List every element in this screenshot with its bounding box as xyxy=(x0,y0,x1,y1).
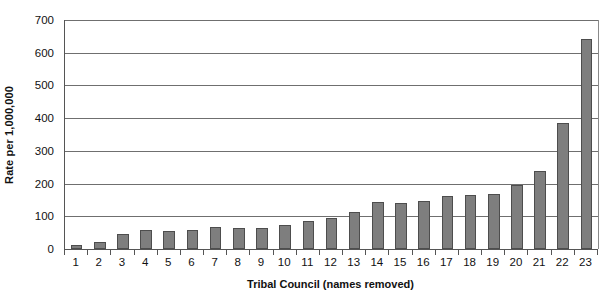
x-axis-tick xyxy=(273,249,274,255)
y-axis-tick-label: 0 xyxy=(18,243,54,255)
x-axis-tick-label: 16 xyxy=(417,256,430,268)
x-axis-tick-label: 8 xyxy=(235,256,241,268)
x-axis-tick-label: 12 xyxy=(324,256,337,268)
bar xyxy=(140,230,152,249)
x-axis-tick-label: 10 xyxy=(278,256,291,268)
y-axis-tick-label: 500 xyxy=(18,79,54,91)
x-axis-tick xyxy=(527,249,528,255)
x-axis-tick-label: 1 xyxy=(72,256,78,268)
x-axis-tick xyxy=(504,249,505,255)
x-axis-tick-label: 7 xyxy=(211,256,217,268)
x-axis-tick-label: 15 xyxy=(394,256,407,268)
y-axis-tick-label: 400 xyxy=(18,112,54,124)
x-axis-tick-label: 2 xyxy=(96,256,102,268)
bar xyxy=(581,39,593,249)
x-axis-tick xyxy=(296,249,297,255)
x-axis-tick-label: 19 xyxy=(486,256,499,268)
bars-layer xyxy=(65,20,598,249)
x-axis-tick xyxy=(481,249,482,255)
plot-right-edge xyxy=(598,20,599,249)
x-axis-tick xyxy=(319,249,320,255)
x-axis-tick xyxy=(458,249,459,255)
bar xyxy=(233,228,245,249)
y-axis-title: Rate per 1,000,000 xyxy=(0,0,18,270)
x-axis-tick-label: 14 xyxy=(370,256,383,268)
x-axis-tick xyxy=(435,249,436,255)
x-axis-tick-labels: 1234567891011121314151617181920212223 xyxy=(64,256,597,274)
x-axis-tick-label: 23 xyxy=(579,256,592,268)
y-axis-title-text: Rate per 1,000,000 xyxy=(3,86,15,184)
x-axis-tick-label: 20 xyxy=(509,256,522,268)
x-axis-tick-label: 5 xyxy=(165,256,171,268)
bar xyxy=(326,218,338,249)
bar xyxy=(303,221,315,249)
x-axis-tick-label: 9 xyxy=(258,256,264,268)
y-axis-tick-label: 100 xyxy=(18,210,54,222)
x-axis-tick xyxy=(110,249,111,255)
bar xyxy=(465,195,477,249)
x-axis-tick xyxy=(342,249,343,255)
y-axis-tick-label: 200 xyxy=(18,178,54,190)
x-axis-tick xyxy=(574,249,575,255)
x-axis-tick-label: 17 xyxy=(440,256,453,268)
bar xyxy=(279,225,291,249)
bar xyxy=(163,231,175,249)
x-axis-tick xyxy=(412,249,413,255)
bar xyxy=(94,242,106,249)
bar xyxy=(187,230,199,249)
bar xyxy=(349,212,361,249)
x-axis-title: Tribal Council (names removed) xyxy=(64,278,597,290)
bar xyxy=(372,202,384,249)
x-axis-tick-label: 18 xyxy=(463,256,476,268)
y-axis-tick-label: 700 xyxy=(18,14,54,26)
x-axis-tick xyxy=(203,249,204,255)
x-axis-tick-label: 4 xyxy=(142,256,148,268)
x-axis-tick xyxy=(157,249,158,255)
y-axis-tick-label: 600 xyxy=(18,47,54,59)
bar xyxy=(534,171,546,249)
x-axis-tick xyxy=(226,249,227,255)
bar xyxy=(418,201,430,249)
bar xyxy=(256,228,268,249)
x-axis-tick-label: 11 xyxy=(301,256,313,268)
x-axis-tick xyxy=(365,249,366,255)
x-axis-tick xyxy=(64,249,65,255)
bar xyxy=(210,227,222,249)
bar xyxy=(442,196,454,249)
plot-area xyxy=(64,20,598,250)
y-axis-tick-labels: 0100200300400500600700 xyxy=(18,0,60,270)
x-axis-tick xyxy=(134,249,135,255)
x-axis-tick xyxy=(87,249,88,255)
x-axis-tick-label: 21 xyxy=(533,256,546,268)
x-axis-tick-label: 22 xyxy=(556,256,569,268)
x-axis-tick xyxy=(180,249,181,255)
y-axis-tick-label: 300 xyxy=(18,145,54,157)
bar xyxy=(511,185,523,249)
bar-chart: Rate per 1,000,000 010020030040050060070… xyxy=(0,0,608,297)
bar xyxy=(117,234,129,249)
x-axis-tick xyxy=(388,249,389,255)
x-axis-tick-label: 13 xyxy=(347,256,360,268)
x-axis-tick xyxy=(249,249,250,255)
x-axis-tick xyxy=(551,249,552,255)
bar xyxy=(488,194,500,249)
x-axis-tick-label: 3 xyxy=(119,256,125,268)
x-axis-tick-label: 6 xyxy=(188,256,194,268)
x-axis-tick xyxy=(597,249,598,255)
bar xyxy=(395,203,407,249)
bar xyxy=(557,123,569,249)
